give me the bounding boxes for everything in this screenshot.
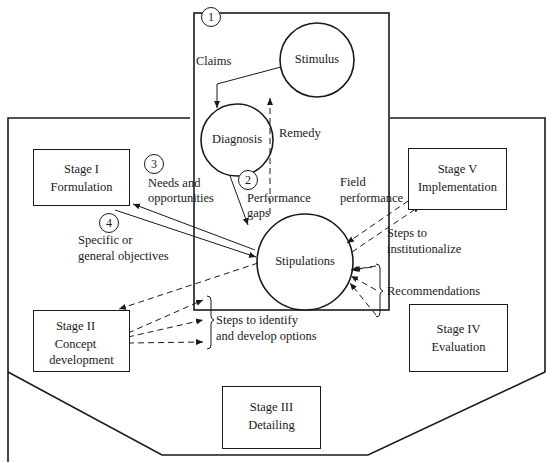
stage-4-name: Evaluation <box>410 340 507 355</box>
remedy-label: Remedy <box>279 126 321 141</box>
steps-institutionalize-line2: institutionalize <box>387 242 461 257</box>
stage-5-title: Stage V <box>409 162 506 177</box>
needs-line1: Needs and <box>148 176 200 191</box>
stage-1-box: Stage I Formulation <box>33 149 130 206</box>
needs-line2: opportunities <box>148 191 214 206</box>
stage-5-name: Implementation <box>409 180 506 195</box>
steps-institutionalize-line1: Steps to <box>387 226 427 241</box>
steps-identify-line1: Steps to identify <box>216 313 298 328</box>
steps-identify-line2: and develop options <box>216 329 317 344</box>
stage-1-name: Formulation <box>34 180 129 195</box>
step-3-marker: 3 <box>144 154 164 174</box>
objectives-line2: general objectives <box>78 249 169 264</box>
stage-3-box: Stage III Detailing <box>222 386 321 449</box>
stage-5-box: Stage V Implementation <box>408 148 507 210</box>
steps-identify-brace <box>207 296 214 349</box>
performance-gaps-line2: gaps <box>247 206 270 221</box>
stimulus-label: Stimulus <box>280 52 354 67</box>
objectives-line1: Specific or <box>78 233 133 248</box>
recommendations-brace <box>376 264 383 317</box>
recommendations-label: Recommendations <box>387 284 480 299</box>
stage-4-title: Stage IV <box>410 322 507 337</box>
stage-3-title: Stage III <box>223 400 320 415</box>
field-performance-line1: Field <box>340 175 366 190</box>
stipulations-label: Stipulations <box>257 254 353 269</box>
stage-4-box: Stage IV Evaluation <box>409 304 508 372</box>
stage2-option-arrow-3 <box>128 342 203 343</box>
diagnosis-label: Diagnosis <box>201 132 273 147</box>
stage2-option-arrow-1 <box>128 300 203 333</box>
stage-2-name-line2: development <box>34 353 129 368</box>
stage-2-name-line1: Concept <box>22 337 129 352</box>
step-4-marker: 4 <box>99 213 119 233</box>
recommendation-arrow-2 <box>351 276 376 290</box>
step-2-marker: 2 <box>238 170 258 190</box>
stage-2-title: Stage II <box>22 319 129 334</box>
step-1-marker: 1 <box>201 7 221 27</box>
stage-2-box: Stage II Concept development <box>33 310 130 372</box>
stage-1-title: Stage I <box>34 162 129 177</box>
performance-gaps-line1: Performance <box>247 191 311 206</box>
stage-3-name: Detailing <box>223 418 320 433</box>
claims-arrow <box>217 67 281 108</box>
recommendation-arrow-1b <box>351 266 376 270</box>
field-performance-line2: performance <box>340 191 403 206</box>
stipulations-to-stage2-arrow <box>119 263 258 309</box>
claims-label: Claims <box>196 54 231 69</box>
